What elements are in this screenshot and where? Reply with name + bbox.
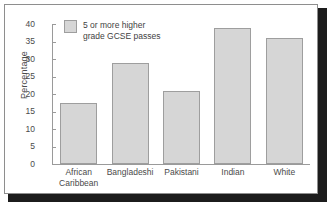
bar bbox=[112, 63, 149, 165]
y-axis-tick-label: 15 bbox=[9, 107, 35, 116]
card-shadow-right bbox=[318, 8, 327, 202]
y-axis-tick-label: 30 bbox=[9, 55, 35, 64]
x-axis-label: AfricanCaribbean bbox=[53, 167, 104, 188]
chart-screenshot: Percentage 4035302520151050 AfricanCarib… bbox=[0, 0, 327, 202]
bar bbox=[60, 103, 97, 164]
bar-series bbox=[53, 24, 310, 164]
chart-legend: 5 or more higher grade GCSE passes bbox=[64, 20, 160, 41]
legend-swatch-icon bbox=[64, 20, 77, 33]
y-axis-tick-label: 35 bbox=[9, 37, 35, 46]
x-axis-label: Bangladeshi bbox=[104, 167, 155, 178]
card-shadow-bottom bbox=[8, 194, 327, 202]
bar bbox=[214, 28, 251, 165]
y-axis-tick-label: 20 bbox=[9, 90, 35, 99]
bar bbox=[163, 91, 200, 165]
y-axis-tick-label: 5 bbox=[9, 142, 35, 151]
y-axis-tick bbox=[52, 164, 56, 165]
bar-chart: Percentage 4035302520151050 AfricanCarib… bbox=[4, 4, 318, 194]
x-axis-label: Indian bbox=[207, 167, 258, 178]
x-axis-label: White bbox=[259, 167, 310, 178]
y-axis-tick-label: 40 bbox=[9, 20, 35, 29]
x-axis-label: Pakistani bbox=[156, 167, 207, 178]
legend-label: 5 or more higher grade GCSE passes bbox=[83, 20, 160, 41]
y-axis-tick-label: 10 bbox=[9, 125, 35, 134]
bar bbox=[266, 38, 303, 164]
y-axis-tick-label: 0 bbox=[9, 160, 35, 169]
y-axis-tick-label: 25 bbox=[9, 72, 35, 81]
x-axis-line bbox=[52, 164, 310, 165]
